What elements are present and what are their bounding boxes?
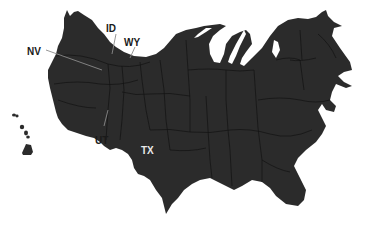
contiguous-us-shape [48,10,352,214]
label-tx: TX [141,145,154,156]
us-cartogram-map: NV ID WY UT TX [0,0,368,247]
label-wy: WY [124,37,140,48]
cartogram-svg: NV ID WY UT TX [0,0,368,247]
hawaii-islands [12,113,33,155]
label-id: ID [106,23,116,34]
label-nv: NV [27,46,41,57]
label-ut: UT [95,135,108,146]
